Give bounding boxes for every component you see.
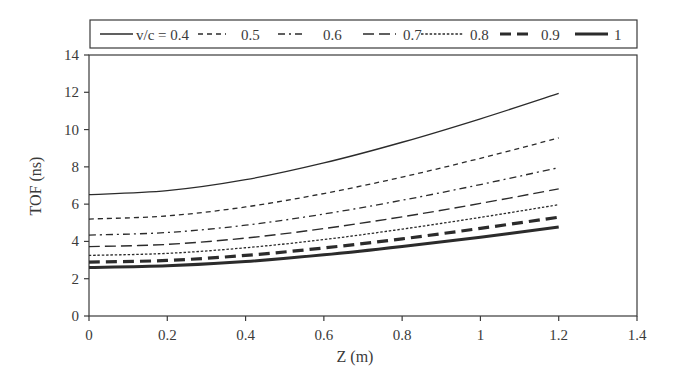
y-tick-label: 12 <box>64 84 79 100</box>
x-tick-label: 0.8 <box>393 327 412 343</box>
legend-label: 0.6 <box>323 27 342 43</box>
y-tick-label: 2 <box>72 271 80 287</box>
x-axis-label: Z (m) <box>337 348 374 366</box>
x-tick-label: 0 <box>85 327 93 343</box>
legend-label: 0.5 <box>241 27 260 43</box>
y-axis: 02468101214 <box>64 47 89 324</box>
x-tick-label: 0.6 <box>314 327 333 343</box>
series-line-0-5 <box>89 138 559 219</box>
y-tick-label: 6 <box>72 196 80 212</box>
y-axis-label: TOF (ns) <box>27 157 45 216</box>
legend-label: 0.7 <box>403 27 422 43</box>
y-tick-label: 8 <box>72 159 80 175</box>
series-line-0-4 <box>89 93 559 194</box>
legend-label: v/c = 0.4 <box>136 27 190 43</box>
y-tick-label: 0 <box>72 308 80 324</box>
x-tick-label: 1.2 <box>549 327 568 343</box>
x-tick-label: 0.2 <box>158 327 177 343</box>
x-tick-label: 1 <box>477 327 485 343</box>
legend: v/c = 0.40.50.60.70.80.91 <box>90 20 637 48</box>
legend-label: 1 <box>614 27 622 43</box>
series-line-0-8 <box>89 205 559 256</box>
tof-vs-z-chart: v/c = 0.40.50.60.70.80.91 02468101214 00… <box>0 0 673 385</box>
x-tick-label: 1.4 <box>628 327 647 343</box>
series-lines <box>89 93 559 267</box>
y-tick-label: 10 <box>64 122 79 138</box>
x-axis: 00.20.40.60.811.21.4 <box>85 316 647 343</box>
y-tick-label: 4 <box>72 233 80 249</box>
series-line-0-7 <box>89 189 559 247</box>
x-tick-label: 0.4 <box>236 327 255 343</box>
legend-label: 0.9 <box>541 27 560 43</box>
y-tick-label: 14 <box>64 47 80 63</box>
legend-label: 0.8 <box>470 27 489 43</box>
